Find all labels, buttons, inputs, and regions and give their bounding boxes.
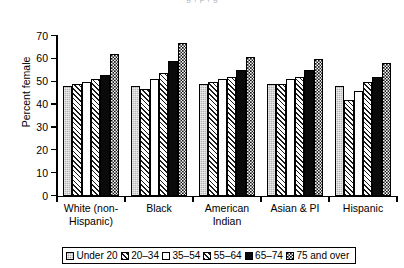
bar [131,86,140,196]
x-axis-category-label: Hispanic [329,202,397,215]
bar [295,77,304,196]
x-axis-category-label-line: Hispanic) [57,215,125,228]
x-axis-category-label-line: Indian [193,215,261,228]
bar [168,61,177,196]
bar-group-bars [193,36,261,196]
bar [227,77,236,196]
bar [344,100,353,196]
bar-group-bars [57,36,125,196]
bar [276,84,285,196]
cropped-chart-title: g , p , g [0,0,404,5]
bar-group [193,36,261,196]
y-axis-tick-label: 40 [0,99,48,110]
y-axis-tick-label: 0 [0,191,48,202]
y-axis-tick-label: 50 [0,76,48,87]
bar [246,57,255,196]
bar [286,79,295,196]
y-axis-tick-label: 10 [0,168,48,179]
legend-entry[interactable]: 75 and over [286,251,349,261]
legend-entry[interactable]: 55–64 [203,251,241,261]
legend-label: 75 and over [296,251,349,261]
bar [140,89,149,196]
bar-group-bars [125,36,193,196]
bar [382,63,391,196]
bar-group [57,36,125,196]
bar [159,73,168,196]
y-axis-tick-label: 30 [0,122,48,133]
legend-entry[interactable]: 35–54 [162,251,200,261]
plot-area [57,36,397,196]
bar-group [125,36,193,196]
bar [63,86,72,196]
bar [372,77,381,196]
bar-group-bars [261,36,329,196]
y-axis-title: Percent female [20,22,32,162]
bar [236,70,245,196]
bar-group-bars [329,36,397,196]
x-axis-category-label-line: White (non- [57,202,125,215]
legend-entry[interactable]: 20–34 [121,251,159,261]
black-solid-swatch [245,252,253,260]
legend-label: 20–34 [131,251,159,261]
white-solid-swatch [162,252,170,260]
x-axis-tick [328,196,329,202]
y-axis-tick-label: 60 [0,53,48,64]
x-axis-tick [56,196,57,202]
bar [82,82,91,196]
bar [110,54,119,196]
bar-chart-figure: g , p , g Percent female 010203040506070… [0,0,404,268]
y-axis-tick-label: 20 [0,145,48,156]
legend-label: Under 20 [77,251,118,261]
x-axis-category-label-line: Black [125,202,193,215]
x-axis-category-label-line: Asian & PI [261,202,329,215]
x-axis-category-label: AmericanIndian [193,202,261,228]
x-axis-category-label-line: Hispanic [329,202,397,215]
bar-group [261,36,329,196]
bar [335,86,344,196]
light-gray-solid-swatch [66,252,74,260]
x-axis-category-label-line: American [193,202,261,215]
bar [218,79,227,196]
x-axis-category-label: Asian & PI [261,202,329,215]
checkerboard-swatch [286,252,294,260]
legend-label: 35–54 [172,251,200,261]
legend-label: 55–64 [214,251,242,261]
bar [178,43,187,196]
y-axis-tick-label: 70 [0,31,48,42]
legend-entry[interactable]: 65–74 [245,251,283,261]
bar [208,82,217,196]
bar [304,70,313,196]
bar [72,84,81,196]
x-axis-category-label: White (non-Hispanic) [57,202,125,228]
chart-legend: Under 2020–3435–5455–6465–7475 and over [62,247,356,264]
x-axis-tick [260,196,261,202]
bar [354,91,363,196]
legend-entry[interactable]: Under 20 [66,251,118,261]
bar-group [329,36,397,196]
bar [363,82,372,196]
bar [314,59,323,196]
bar [199,84,208,196]
bar [150,79,159,196]
x-axis-category-label: Black [125,202,193,215]
x-axis-tick [396,196,397,202]
legend-label: 65–74 [255,251,283,261]
diagonal-hatch-swatch [203,252,211,260]
x-axis-tick [124,196,125,202]
bar [267,84,276,196]
x-axis-tick [192,196,193,202]
bar [91,79,100,196]
bar [100,75,109,196]
diagonal-hatch-swatch [121,252,129,260]
